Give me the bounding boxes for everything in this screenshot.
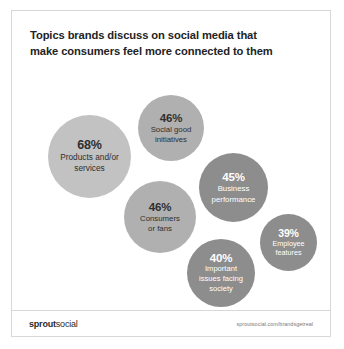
- bubble-consumers-or-fans: 46% Consumers or fans: [124, 181, 196, 253]
- bubble-chart: 68% Products and/or services 46% Social …: [12, 11, 330, 311]
- bubble-important-issues-facing-society: 40% Important issues facing society: [187, 239, 255, 307]
- bubble-label-line-2: or fans: [148, 224, 172, 233]
- bubble-social-good-initiatives: 46% Social good initiatives: [138, 95, 204, 161]
- sprout-social-logo: sproutsocial: [29, 319, 78, 329]
- bubble-products-services: 68% Products and/or services: [48, 115, 131, 198]
- footer: sproutsocial sproutsocial.com/brandsgetr…: [12, 310, 330, 336]
- bubble-label-line-2: issues facing: [199, 275, 243, 284]
- bubble-label-line-2: initiatives: [155, 135, 187, 144]
- bubble-percent: 40%: [210, 252, 232, 264]
- bubble-percent: 45%: [222, 171, 244, 183]
- bubble-label-line-1: Employee: [273, 240, 305, 248]
- bubble-percent: 46%: [149, 201, 171, 213]
- bubble-label-line-2: features: [276, 249, 302, 257]
- bubble-label-line-3: society: [209, 285, 233, 294]
- bubble-business-performance: 45% Business performance: [199, 153, 268, 222]
- bubble-label-line-2: performance: [212, 195, 256, 204]
- logo-word-social: social: [56, 319, 78, 329]
- bubble-percent: 46%: [160, 112, 182, 124]
- bubble-label-line-1: Social good: [151, 125, 192, 134]
- bubble-percent: 68%: [77, 139, 101, 152]
- bubble-label-line-2: services: [74, 164, 104, 174]
- bubble-employee-features: 39% Employee features: [260, 214, 317, 271]
- bubble-percent: 39%: [278, 228, 298, 239]
- bubble-label-line-1: Consumers: [140, 214, 180, 223]
- bubble-label-line-1: Products and/or: [60, 153, 119, 163]
- logo-word-sprout: sprout: [29, 319, 56, 329]
- footer-url: sproutsocial.com/brandsgetreal: [237, 321, 313, 327]
- bubble-label-line-1: Business: [218, 184, 250, 193]
- infographic-card: Topics brands discuss on social media th…: [11, 10, 331, 337]
- bubble-label-line-1: Important: [205, 265, 237, 274]
